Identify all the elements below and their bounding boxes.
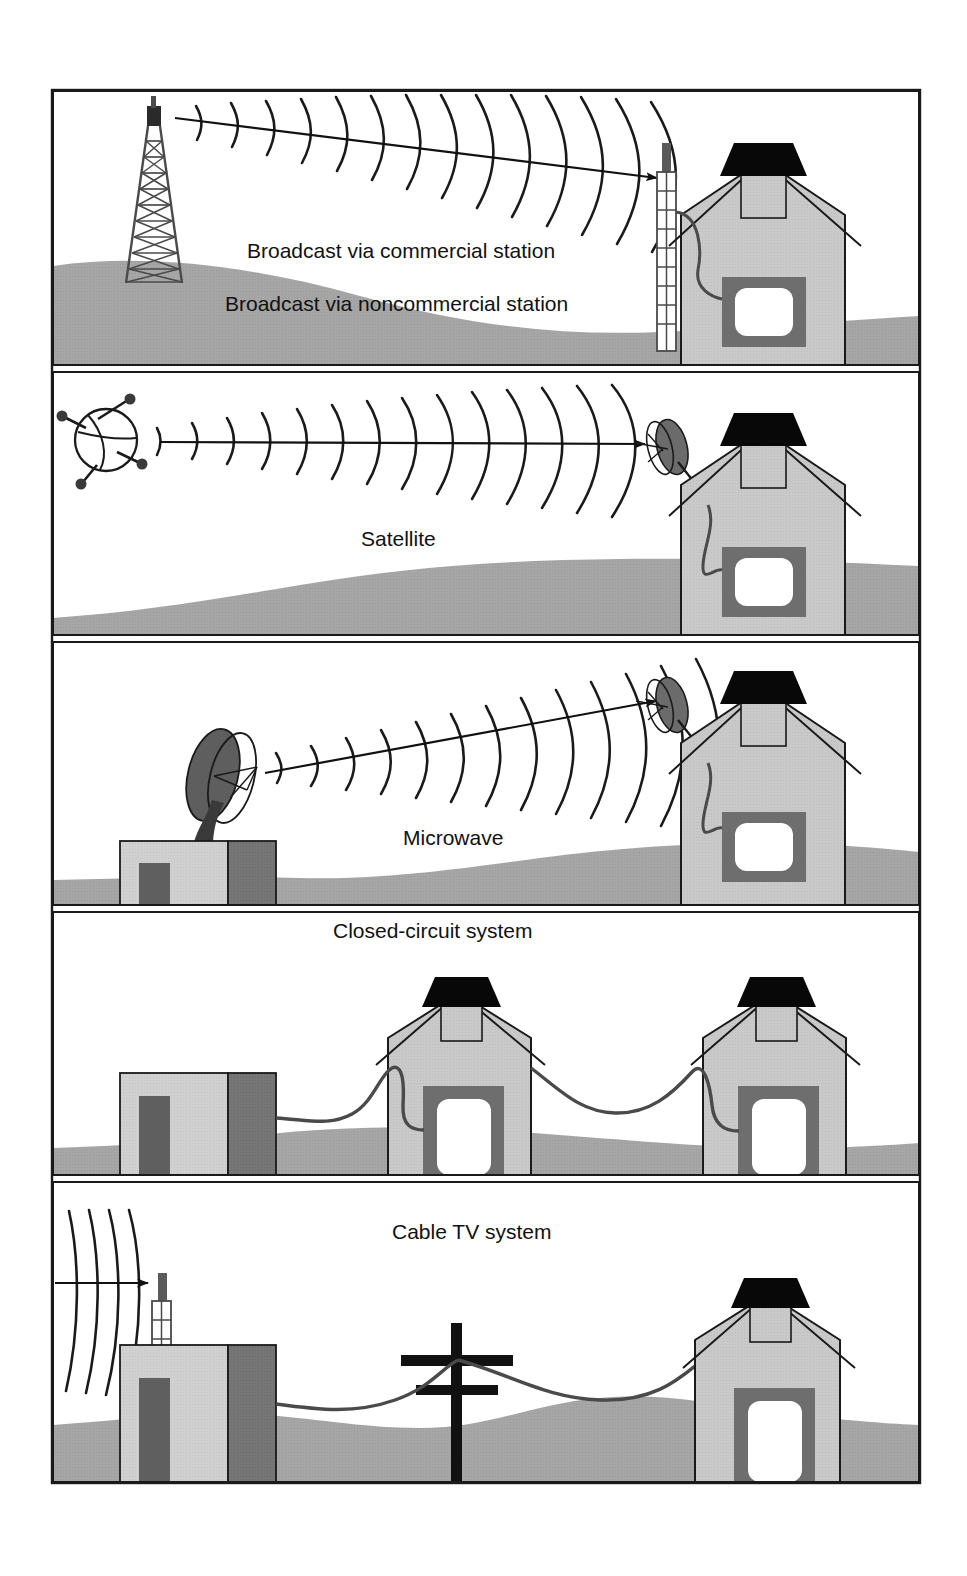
chimney-cap [720, 671, 807, 704]
station-building-side [228, 1073, 276, 1175]
panel-broadcast: Broadcast via commercial station Broadca… [53, 91, 919, 365]
panel-label-microwave: Microwave [403, 826, 503, 849]
tv-set-icon [722, 547, 806, 617]
station-door [139, 1378, 170, 1482]
panel-label-cable-tv: Cable TV system [392, 1220, 552, 1243]
roof-antenna-mast-icon [657, 143, 676, 351]
tv-signal-distribution-figure: Broadcast via commercial station Broadca… [0, 0, 967, 1576]
chimney [756, 1004, 797, 1041]
panel-label-satellite: Satellite [361, 527, 436, 550]
chimney-cap [737, 977, 816, 1007]
panel-label-noncommercial: Broadcast via noncommercial station [225, 292, 568, 315]
station-building [120, 1073, 276, 1175]
diagram-canvas: Broadcast via commercial station Broadca… [0, 0, 967, 1576]
station-building-front [120, 1345, 228, 1482]
chimney [741, 701, 786, 746]
chimney [741, 173, 786, 218]
chimney-cap [720, 143, 807, 176]
tv-set-icon [722, 277, 806, 347]
chimney-cap [422, 977, 501, 1007]
chimney [441, 1004, 482, 1041]
tv-set-icon [734, 1388, 815, 1482]
chimney [741, 443, 786, 488]
panel-label-closed-circuit: Closed-circuit system [333, 919, 533, 942]
station-building-front [120, 1073, 228, 1175]
panel-label-commercial: Broadcast via commercial station [247, 239, 555, 262]
tv-set-icon [738, 1086, 819, 1175]
chimney [750, 1305, 791, 1342]
chimney-cap [720, 413, 807, 446]
station-building-side [228, 1345, 276, 1482]
panel-satellite: Satellite [53, 372, 919, 635]
station-door [139, 1096, 170, 1175]
panel-closed-circuit: Closed-circuit system [53, 912, 919, 1175]
panel-microwave: Microwave [53, 642, 919, 938]
chimney-cap [731, 1278, 810, 1308]
tv-set-icon [722, 812, 806, 882]
panel-cable-tv: Cable TV system [53, 1182, 919, 1482]
tv-set-icon [423, 1086, 504, 1175]
